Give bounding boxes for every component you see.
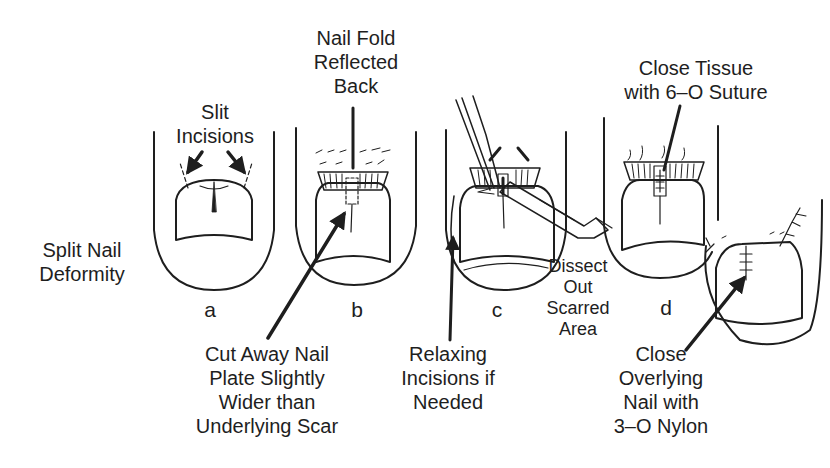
label-split-nail-deformity: Split Nail Deformity bbox=[22, 238, 142, 286]
panel-letter-b: b bbox=[347, 298, 367, 322]
panel-d-finger bbox=[604, 106, 718, 278]
label-dissect-scarred-area: Dissect Out Scarred Area bbox=[538, 256, 618, 340]
label-close-overlying-nail: Close Overlying Nail with 3–O Nylon bbox=[596, 342, 726, 438]
label-cut-away-nail-plate: Cut Away Nail Plate Slightly Wider than … bbox=[172, 342, 362, 438]
panel-d-closure-finger bbox=[686, 200, 822, 350]
label-slit-incisions: Slit Incisions bbox=[160, 100, 270, 148]
panel-letter-a: a bbox=[200, 298, 220, 322]
panel-b-finger bbox=[268, 108, 416, 338]
label-relaxing-incisions: Relaxing Incisions if Needed bbox=[378, 342, 518, 414]
label-nail-fold-reflected-back: Nail Fold Reflected Back bbox=[296, 26, 416, 98]
panel-letter-d: d bbox=[656, 296, 676, 320]
nail-repair-diagram: Slit Incisions Split Nail Deformity Nail… bbox=[0, 0, 830, 468]
label-close-tissue: Close Tissue with 6–O Suture bbox=[596, 56, 796, 104]
panel-a-finger bbox=[154, 132, 274, 290]
panel-letter-c: c bbox=[487, 298, 507, 322]
